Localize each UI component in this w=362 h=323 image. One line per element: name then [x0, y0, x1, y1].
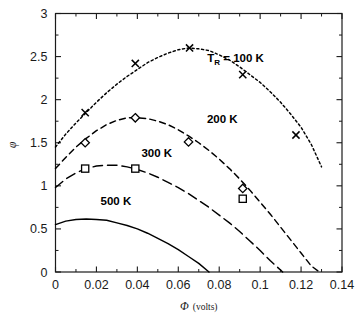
y-tick-label-1: 0.5: [30, 222, 47, 236]
marker-100-K-4: [292, 131, 299, 138]
x-axis-tick-labels: 00.020.040.060.080.10.120.14: [52, 278, 354, 292]
x-tick-label-1: 0.02: [84, 278, 108, 292]
curve-label-300-K: 300 K: [141, 147, 172, 159]
marker-200-K-2: [184, 138, 192, 146]
data-series-lines: [56, 48, 322, 272]
y-tick-label-5: 2.5: [30, 50, 47, 64]
y-axis-title: φ: [6, 141, 19, 148]
x-tick-label-3: 0.06: [166, 278, 190, 292]
marker-100-K-0: [82, 109, 89, 116]
series-line-100-K: [56, 48, 322, 167]
marker-300-K-0: [82, 165, 89, 172]
x-tick-label-2: 0.04: [125, 278, 149, 292]
series-line-500-K: [56, 219, 209, 272]
x-tick-label-5: 0.1: [251, 278, 268, 292]
y-tick-label-0: 0: [41, 266, 48, 280]
curve-label-200-K: 200 K: [207, 113, 238, 125]
y-axis-tick-labels: 00.511.522.53: [30, 7, 47, 280]
y-tick-label-6: 3: [41, 7, 48, 21]
chart-svg: 00.020.040.060.080.10.120.14 00.511.522.…: [0, 0, 362, 323]
x-tick-label-4: 0.08: [207, 278, 231, 292]
marker-200-K-1: [131, 114, 139, 122]
data-series-markers: [81, 44, 300, 202]
y-tick-label-4: 2: [41, 93, 48, 107]
x-tick-label-7: 0.14: [330, 278, 354, 292]
curve-label-500-K: 500 K: [101, 195, 132, 207]
x-axis-title: Φ(volts): [180, 300, 218, 313]
marker-100-K-1: [132, 60, 139, 67]
marker-300-K-2: [239, 195, 246, 202]
y-tick-label-2: 1: [41, 179, 48, 193]
figure-container: 00.020.040.060.080.10.120.14 00.511.522.…: [0, 0, 362, 323]
marker-300-K-1: [132, 165, 139, 172]
marker-200-K-0: [81, 139, 89, 147]
y-tick-label-3: 1.5: [30, 136, 47, 150]
x-tick-label-6: 0.12: [289, 278, 313, 292]
curve-labels: TR = 100 K200 K300 K500 K: [101, 52, 265, 207]
x-tick-label-0: 0: [52, 278, 59, 292]
marker-100-K-3: [239, 71, 246, 78]
